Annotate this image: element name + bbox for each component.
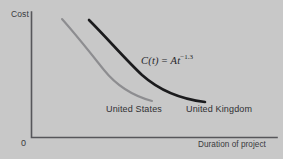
origin-tick-label: 0 — [21, 139, 26, 148]
plot-area — [0, 0, 283, 159]
series-label-united-states: United States — [106, 105, 162, 114]
equation-argument: (t) — [148, 55, 159, 66]
series-label-united-kingdom: United Kingdom — [186, 105, 252, 114]
y-axis-label: Cost — [11, 10, 29, 19]
equation-operator: = — [159, 55, 171, 66]
figure-canvas: Cost 0 Duration of project United States… — [0, 0, 283, 159]
equation-annotation: C(t) = At−1.3 — [141, 54, 193, 66]
equation-exponent: −1.3 — [180, 53, 193, 61]
curve-united-states — [62, 19, 152, 101]
x-axis-label: Duration of project — [198, 141, 266, 149]
equation-coefficient: At — [171, 55, 181, 66]
axis-lines — [32, 12, 278, 138]
